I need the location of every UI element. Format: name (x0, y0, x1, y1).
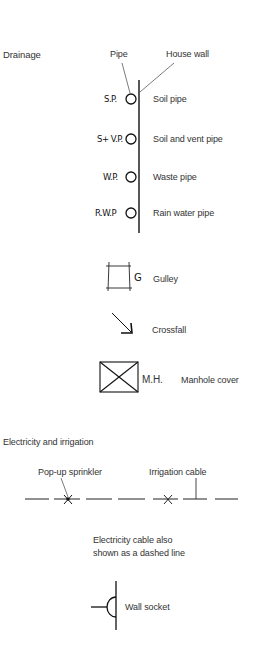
sprinkler-leader-line (61, 478, 68, 497)
pipe-callout-label: Pipe (110, 49, 128, 60)
rain-water-pipe-label: Rain water pipe (153, 208, 214, 219)
crossfall-label: Crossfall (152, 325, 186, 336)
house-wall-callout-label: House wall (166, 49, 209, 60)
electricity-note-line2: shown as a dashed line (93, 548, 185, 559)
wall-socket-label: Wall socket (125, 602, 170, 613)
sprinkler-callout-label: Pop-up sprinkler (38, 467, 102, 478)
soil-pipe-label: Soil pipe (153, 94, 187, 105)
crossfall-arrow-icon (112, 313, 132, 333)
house-wall-leader-line (140, 63, 174, 92)
manhole-cover-label: Manhole cover (181, 375, 239, 386)
irrigation-cable-callout-label: Irrigation cable (149, 467, 206, 478)
diagram-canvas (0, 0, 253, 667)
rain-water-pipe-circle-icon (126, 208, 136, 218)
soil-pipe-abbr: S.P. (104, 94, 117, 104)
electricity-section-title: Electricity and irrigation (3, 437, 93, 448)
soil-vent-pipe-label: Soil and vent pipe (153, 134, 223, 145)
gulley-label: Gulley (153, 274, 178, 285)
gulley-abbr: G (134, 273, 141, 283)
soil-vent-pipe-circle-icon (126, 134, 136, 144)
soil-vent-pipe-abbr: S+ V.P. (97, 134, 123, 144)
soil-pipe-circle-icon (126, 94, 136, 104)
waste-pipe-label: Waste pipe (153, 172, 197, 183)
waste-pipe-circle-icon (126, 172, 136, 182)
pipe-leader-line (122, 63, 130, 93)
rain-water-pipe-abbr: R.W.P (95, 208, 116, 218)
drainage-section-title: Drainage (3, 49, 41, 60)
electricity-note-line1: Electricity cable also (93, 535, 172, 546)
waste-pipe-abbr: W.P. (103, 172, 118, 182)
manhole-cover-icon (100, 362, 138, 392)
manhole-abbr: M.H. (142, 374, 163, 385)
gulley-icon (106, 262, 132, 291)
wall-socket-icon (91, 581, 116, 630)
